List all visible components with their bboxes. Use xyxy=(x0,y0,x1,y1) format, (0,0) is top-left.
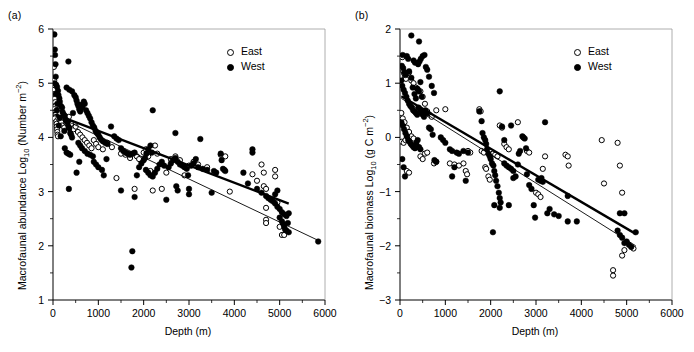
data-point-west xyxy=(175,188,181,194)
data-point-east xyxy=(100,147,105,152)
data-point-west xyxy=(286,229,292,235)
data-point-east xyxy=(610,273,615,278)
panel-b-plot: 0100020003000400050006000−3−2−1012 xyxy=(347,0,694,352)
data-point-west xyxy=(186,186,192,192)
data-point-west xyxy=(222,168,228,174)
data-point-east xyxy=(273,167,278,172)
data-point-west xyxy=(53,74,59,80)
data-point-west xyxy=(409,33,415,39)
legend-label-west: West xyxy=(588,61,612,72)
data-point-west xyxy=(150,108,156,114)
data-point-west xyxy=(286,210,292,216)
data-point-west xyxy=(82,101,88,107)
data-point-east xyxy=(461,161,466,166)
data-point-west xyxy=(522,136,528,142)
data-point-east xyxy=(89,146,94,151)
data-point-west xyxy=(492,173,498,179)
y-tick-label: 3 xyxy=(38,186,44,198)
data-point-west xyxy=(429,83,435,89)
data-layer xyxy=(51,32,321,271)
data-point-west xyxy=(118,188,124,194)
data-point-west xyxy=(496,190,502,196)
data-point-west xyxy=(556,213,562,219)
y-tick-label: −3 xyxy=(379,294,391,306)
open-circle-icon xyxy=(572,46,583,57)
x-tick-label: 0 xyxy=(50,307,56,319)
data-point-east xyxy=(159,186,164,191)
data-point-west xyxy=(463,178,469,184)
data-point-west xyxy=(628,244,634,250)
data-point-east xyxy=(615,140,620,145)
data-point-west xyxy=(245,181,251,187)
data-point-west xyxy=(406,68,412,74)
data-point-west xyxy=(506,202,512,208)
y-tick-label: 1 xyxy=(38,294,44,306)
data-point-west xyxy=(148,143,154,149)
x-tick-label: 5000 xyxy=(268,307,292,319)
data-point-east xyxy=(599,138,604,143)
data-point-west xyxy=(173,130,179,136)
legend-item-east: East xyxy=(225,44,265,59)
data-point-east xyxy=(464,172,469,177)
data-point-west xyxy=(250,147,256,153)
x-tick-label: 4000 xyxy=(570,307,594,319)
data-point-west xyxy=(493,178,499,184)
data-point-east xyxy=(150,188,155,193)
data-point-west xyxy=(418,79,424,85)
data-point-west xyxy=(426,74,432,80)
data-point-west xyxy=(58,134,64,140)
data-point-west xyxy=(275,188,281,194)
data-point-west xyxy=(424,67,430,73)
legend-item-west: West xyxy=(225,59,265,74)
data-point-west xyxy=(186,192,192,198)
data-point-east xyxy=(263,186,268,191)
regression-line-west-fit xyxy=(56,115,289,204)
data-point-west xyxy=(418,147,424,153)
data-point-west xyxy=(218,151,224,157)
data-point-east xyxy=(422,101,427,106)
data-point-east xyxy=(259,162,264,167)
data-point-east xyxy=(443,107,448,112)
data-point-west xyxy=(241,170,247,176)
data-point-west xyxy=(477,109,483,115)
data-point-west xyxy=(90,154,96,160)
data-point-east xyxy=(601,181,606,186)
data-point-west xyxy=(490,229,496,235)
data-point-west xyxy=(405,56,411,62)
data-point-west xyxy=(66,59,72,65)
data-point-west xyxy=(508,123,514,129)
data-point-west xyxy=(219,157,225,163)
y-tick-label: 6 xyxy=(38,23,44,35)
panel-b: (b) Macrofaunal biomass Log10 (g C m−2) … xyxy=(347,0,694,352)
data-point-west xyxy=(409,75,415,81)
legend-label-west: West xyxy=(241,61,265,72)
data-point-east xyxy=(487,177,492,182)
data-point-west xyxy=(547,206,553,212)
data-point-west xyxy=(69,135,75,141)
data-point-west xyxy=(402,174,408,180)
data-point-east xyxy=(538,194,543,199)
figure-container: (a) Macrofaunal abundance Log10 (Number … xyxy=(0,0,694,352)
data-point-west xyxy=(399,78,405,84)
data-point-east xyxy=(263,205,268,210)
data-point-west xyxy=(104,156,110,162)
panel-a-legend: East West xyxy=(225,44,265,74)
axis-frame xyxy=(400,29,672,300)
data-point-east xyxy=(566,163,571,168)
data-point-west xyxy=(66,186,72,192)
data-point-east xyxy=(114,175,119,180)
data-point-east xyxy=(542,154,547,159)
x-tick-label: 0 xyxy=(397,307,403,319)
filled-circle-icon xyxy=(225,61,236,72)
data-point-west xyxy=(428,126,434,132)
data-point-west xyxy=(108,124,114,130)
data-point-west xyxy=(99,167,105,173)
data-point-east xyxy=(610,268,615,273)
y-tick-label: 5 xyxy=(38,77,44,89)
data-point-west xyxy=(105,141,111,147)
y-tick-label: −1 xyxy=(379,186,391,198)
data-point-west xyxy=(67,152,73,158)
y-tick-label: 2 xyxy=(385,23,391,35)
data-point-west xyxy=(499,124,505,130)
data-point-west xyxy=(449,174,455,180)
